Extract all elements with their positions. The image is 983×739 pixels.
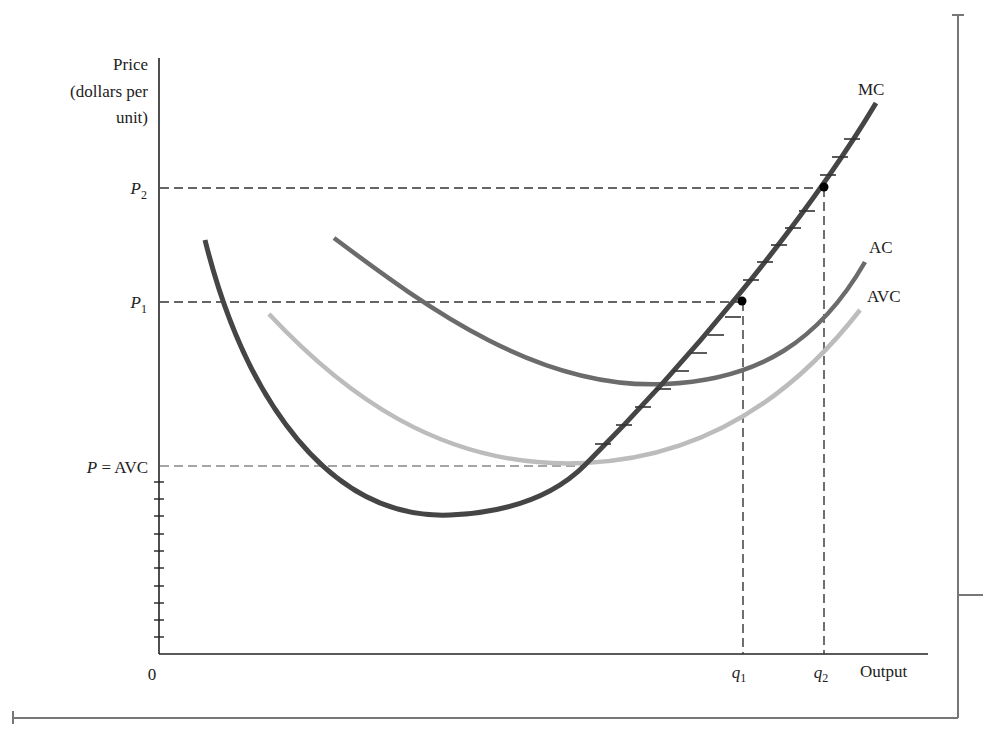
q2-label: q2 bbox=[814, 663, 829, 685]
p2-label: P2 bbox=[130, 179, 147, 202]
axes bbox=[159, 58, 928, 654]
p1-label: P1 bbox=[130, 293, 147, 316]
ac-label: AC bbox=[869, 238, 893, 257]
reference-lines bbox=[160, 188, 824, 654]
avc-curve bbox=[269, 310, 860, 463]
y-axis-title-line2: (dollars per bbox=[70, 82, 148, 101]
point-q2-p2 bbox=[820, 183, 829, 192]
y-axis-title-line3: unit) bbox=[116, 108, 148, 127]
origin-label: 0 bbox=[148, 665, 157, 684]
q1-label: q1 bbox=[732, 663, 747, 685]
avc-label: AVC bbox=[867, 287, 901, 306]
mc-label: MC bbox=[858, 80, 884, 99]
p-avc-label: P = AVC bbox=[86, 458, 148, 477]
ac-curve bbox=[334, 238, 865, 384]
point-q1-p1 bbox=[738, 297, 747, 306]
mc-curve bbox=[205, 103, 876, 515]
x-axis-title: Output bbox=[860, 662, 908, 681]
y-axis-title-line1: Price bbox=[113, 55, 148, 74]
cost-curves-diagram: Price (dollars per unit) P2 P1 P = AVC 0… bbox=[0, 0, 983, 739]
